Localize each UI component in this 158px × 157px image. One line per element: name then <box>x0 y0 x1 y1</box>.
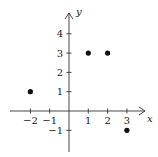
y-tick-label: −1 <box>48 125 63 136</box>
x-axis-label: x <box>147 113 153 124</box>
data-point <box>105 51 110 56</box>
x-tick-label: 2 <box>104 115 110 126</box>
x-tick-label: 3 <box>124 115 130 126</box>
x-tick-label: 1 <box>85 115 91 126</box>
y-tick-label: 2 <box>57 67 63 78</box>
y-tick-label: 1 <box>57 86 63 97</box>
scatter-chart: −2−1123−11234 x y <box>0 0 158 157</box>
data-point <box>86 51 91 56</box>
data-point <box>28 89 33 94</box>
y-axis-label: y <box>75 6 82 17</box>
x-tick-label: −2 <box>23 115 38 126</box>
ticks: −2−1123−11234 <box>23 28 130 136</box>
data-point <box>124 128 129 133</box>
y-tick-label: 4 <box>57 28 63 39</box>
y-tick-label: 3 <box>57 48 63 59</box>
